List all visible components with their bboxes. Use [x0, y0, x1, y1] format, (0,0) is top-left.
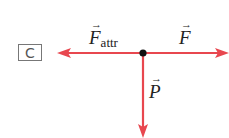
- force-arrow-p: [138, 53, 148, 138]
- vector-arrow-icon: →: [91, 19, 102, 30]
- label-f: → F: [179, 28, 191, 47]
- label-p: → P: [149, 82, 161, 101]
- label-f-attr: → Fattr: [89, 28, 118, 49]
- vector-arrow-icon: →: [151, 73, 162, 84]
- application-point: [139, 49, 146, 56]
- force-diagram: [0, 0, 229, 138]
- vector-arrow-icon: →: [181, 19, 192, 30]
- force-arrow-f: [143, 48, 229, 58]
